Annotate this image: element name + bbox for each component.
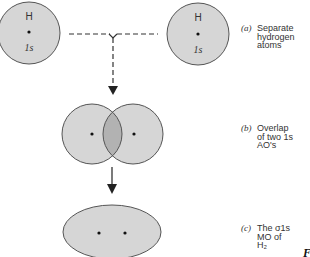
orbital-label: 1s — [194, 44, 203, 55]
cutoff-line: F — [303, 248, 310, 257]
nucleus-dot — [27, 30, 30, 33]
solid-down-arrow — [107, 167, 117, 194]
hydrogen-atom-right: H 1s — [167, 3, 229, 65]
hydrogen-atom-left: H 1s — [0, 2, 60, 64]
arrow-down-icon — [108, 86, 118, 95]
caption-tag: (a) — [241, 24, 252, 33]
caption-tag: (b) — [241, 124, 252, 133]
caption-text: Overlap of two 1s AO's — [257, 124, 293, 150]
caption-text: Separate hydrogen atoms — [257, 24, 295, 50]
atom-symbol: H — [25, 11, 32, 22]
nucleus-dot — [132, 132, 135, 135]
caption-text: The σ1s MO of H₂ — [257, 224, 290, 250]
atom-symbol: H — [194, 12, 201, 23]
overlapping-orbitals — [62, 104, 163, 164]
orbital-label: 1s — [25, 42, 34, 53]
figure-caption-cutoff: F M I — [303, 226, 310, 257]
dashed-merge-arrow — [69, 34, 158, 95]
caption-tag: (c) — [241, 224, 251, 233]
arrow-down-icon — [107, 184, 117, 194]
nucleus-dot — [196, 32, 199, 35]
nucleus-dot — [90, 132, 93, 135]
nucleus-dot — [123, 231, 126, 234]
sigma-1s-molecular-orbital — [63, 205, 161, 257]
nucleus-dot — [97, 231, 100, 234]
